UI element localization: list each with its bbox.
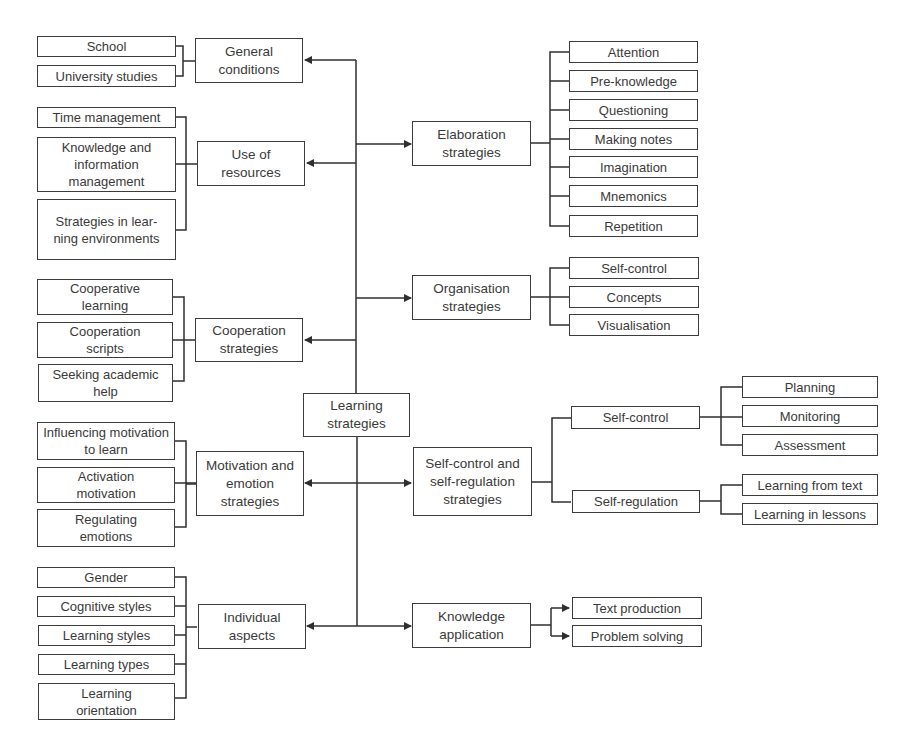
leaf-knowledge-information-management: Knowledge and information management [37,137,176,192]
leaf-time-management: Time management [37,107,176,128]
leaf-influencing-motivation: Influencing motivation to learn [37,422,175,460]
leaf-learning-orientation: Learning orientation [38,683,175,720]
leaf-learning-types: Learning types [38,654,175,675]
leaf-learning-in-lessons: Learning in lessons [742,503,878,525]
subnode-self-control: Self-control [571,406,700,429]
leaf-learning-from-text: Learning from text [742,474,878,496]
node-motivation-emotion-strategies: Motivation and emotion strategies [196,451,304,516]
leaf-planning: Planning [742,376,878,398]
leaf-pre-knowledge: Pre-knowledge [569,70,698,92]
leaf-learning-styles: Learning styles [38,625,175,646]
leaf-cooperative-learning: Cooperative learning [37,279,173,315]
leaf-attention: Attention [569,41,698,63]
leaf-text-production: Text production [572,597,702,619]
leaf-imagination: Imagination [569,156,698,178]
leaf-questioning: Questioning [569,99,698,121]
subnode-self-regulation: Self-regulation [572,490,700,513]
leaf-visualisation: Visualisation [569,314,699,336]
leaf-strategies-learning-environments: Strategies in lear-ning environments [37,199,176,260]
leaf-self-control-org: Self-control [569,257,699,279]
learning-strategies-diagram: Learning strategies General conditions S… [0,0,911,745]
node-cooperation-strategies: Cooperation strategies [195,318,303,362]
leaf-gender: Gender [37,567,175,588]
leaf-activation-motivation: Activation motivation [37,467,175,503]
node-self-control-regulation-strategies: Self-control and self-regulation strateg… [413,447,532,516]
leaf-seeking-academic-help: Seeking academic help [38,364,173,402]
leaf-cognitive-styles: Cognitive styles [37,596,175,617]
leaf-monitoring: Monitoring [742,405,878,427]
leaf-concepts: Concepts [569,286,699,308]
node-organisation-strategies: Organisation strategies [412,275,531,320]
leaf-university-studies: University studies [37,65,176,87]
leaf-mnemonics: Mnemonics [569,185,698,207]
node-use-of-resources: Use of resources [197,141,305,186]
node-individual-aspects: Individual aspects [198,604,306,649]
root-node-learning-strategies: Learning strategies [303,393,410,437]
leaf-assessment: Assessment [742,434,878,456]
node-elaboration-strategies: Elaboration strategies [412,121,531,166]
leaf-regulating-emotions: Regulating emotions [37,509,175,547]
leaf-making-notes: Making notes [569,128,698,150]
leaf-problem-solving: Problem solving [572,625,702,647]
node-knowledge-application: Knowledge application [412,603,531,648]
node-general-conditions: General conditions [195,38,303,83]
leaf-repetition: Repetition [569,215,698,237]
leaf-school: School [37,36,176,57]
leaf-cooperation-scripts: Cooperation scripts [37,322,173,358]
